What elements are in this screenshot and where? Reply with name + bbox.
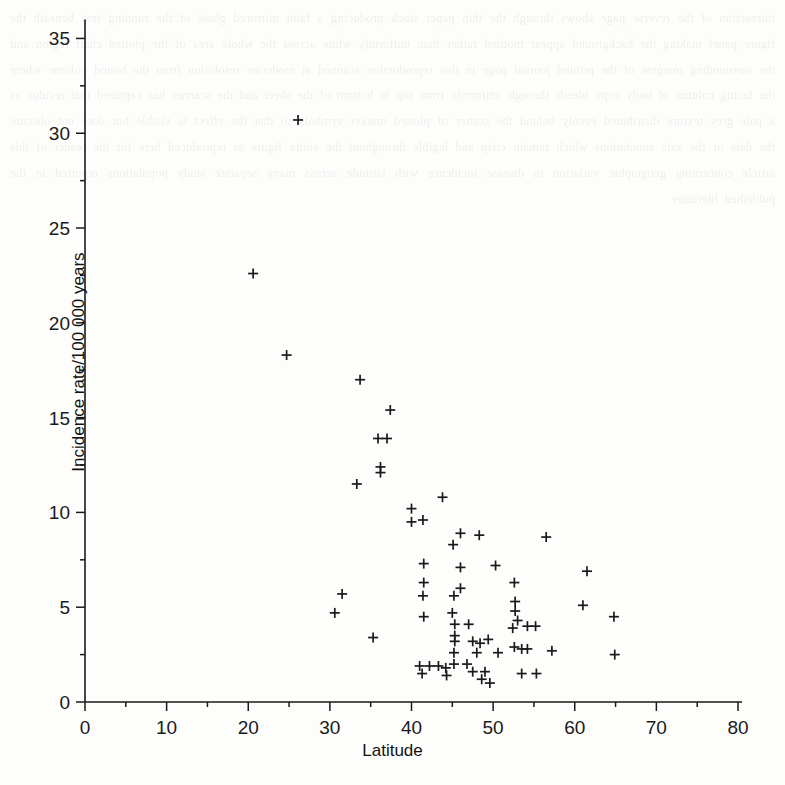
data-point-marker [510,597,520,607]
data-point-marker [385,405,395,415]
data-point-marker [491,560,501,570]
data-point-marker [455,562,465,572]
y-tick-label: 20 [49,313,70,334]
data-point-marker [455,528,465,538]
data-point-marker [248,269,258,279]
x-tick-label: 0 [80,717,91,738]
x-tick-label: 80 [727,717,748,738]
data-point-marker [418,591,428,601]
data-point-marker [433,661,443,671]
y-tick-label: 25 [49,218,70,239]
data-point-marker [293,115,303,125]
data-point-marker [474,530,484,540]
y-tick-label: 30 [49,123,70,144]
x-tick-label: 60 [564,717,585,738]
data-point-marker [468,667,478,677]
data-point-marker [509,642,519,652]
x-axis-label: Latitude [0,741,785,761]
plot-area: 0102030405060708005101520253035 [0,0,785,785]
y-tick-label: 35 [49,28,70,49]
data-point-marker [407,504,417,514]
data-point-marker [510,606,520,616]
data-point-marker [382,433,392,443]
data-point-marker [352,479,362,489]
data-point-marker [419,578,429,588]
x-tick-label: 70 [646,717,667,738]
y-tick-label: 0 [59,692,70,713]
scatter-plot-svg: 0102030405060708005101520253035 [0,0,785,785]
data-point-marker [582,566,592,576]
data-point-marker [438,492,448,502]
data-point-marker [513,615,523,625]
data-point-marker [417,669,427,679]
data-point-marker [442,670,452,680]
data-point-marker [522,644,532,654]
data-point-marker [509,578,519,588]
x-tick-label: 10 [156,717,177,738]
y-tick-label: 15 [49,408,70,429]
data-point-group [248,115,620,688]
data-point-marker [419,559,429,569]
data-point-marker [449,591,459,601]
data-point-marker [455,583,465,593]
data-point-marker [450,619,460,629]
data-point-marker [419,612,429,622]
data-point-marker [337,589,347,599]
data-point-marker [373,433,383,443]
data-point-marker [464,619,474,629]
data-point-marker [368,633,378,643]
chart-figure: interaction of the reverse page shows th… [0,0,785,785]
data-point-marker [508,623,518,633]
data-point-marker [424,661,434,671]
data-point-marker [531,669,541,679]
data-point-marker [609,612,619,622]
x-tick-label: 30 [319,717,340,738]
data-point-marker [468,636,478,646]
data-point-marker [472,648,482,658]
data-point-marker [531,621,541,631]
x-tick-label: 50 [483,717,504,738]
data-point-marker [541,532,551,542]
data-point-marker [355,375,365,385]
data-point-marker [547,646,557,656]
data-point-marker [493,648,503,658]
x-tick-label: 40 [401,717,422,738]
data-point-marker [375,468,385,478]
data-point-marker [462,659,472,669]
data-point-marker [578,600,588,610]
data-point-marker [282,350,292,360]
data-point-marker [450,636,460,646]
x-tick-label: 20 [238,717,259,738]
data-point-marker [418,515,428,525]
data-point-marker [407,517,417,527]
data-point-marker [449,648,459,658]
data-point-marker [610,650,620,660]
data-point-marker [330,608,340,618]
y-tick-label: 10 [49,502,70,523]
data-point-marker [448,540,458,550]
data-point-marker [447,608,457,618]
data-point-marker [415,661,425,671]
data-point-marker [517,669,527,679]
y-axis-label: Incidence rate/100 000 years [69,52,89,672]
